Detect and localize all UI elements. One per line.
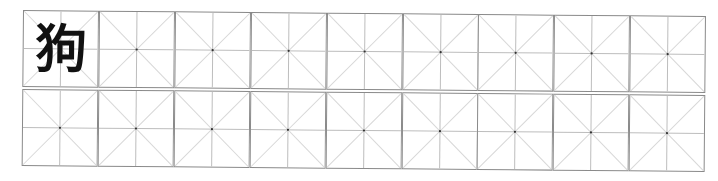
grid-cell: [477, 93, 554, 171]
practice-character: 狗: [23, 11, 98, 87]
empty-practice-slot: [631, 16, 706, 92]
grid-cell: [22, 89, 99, 167]
grid-cell: [402, 13, 479, 91]
empty-practice-slot: [99, 12, 174, 88]
grid-cell: [325, 92, 402, 170]
empty-practice-slot: [175, 12, 250, 88]
grid-cell: [478, 14, 555, 92]
grid-cell: 狗: [22, 10, 99, 88]
grid-cell: [401, 92, 478, 170]
empty-practice-slot: [554, 95, 629, 171]
grid-cell: [553, 94, 630, 172]
empty-practice-slot: [23, 90, 98, 166]
empty-practice-slot: [99, 91, 174, 167]
grid-cell: [98, 90, 175, 168]
empty-practice-slot: [403, 14, 478, 90]
grid-cell: [249, 91, 326, 169]
empty-practice-slot: [250, 92, 325, 168]
grid-cell: [629, 15, 706, 93]
empty-practice-slot: [402, 93, 477, 169]
grid-cell: [554, 15, 631, 93]
grid-row-2: [22, 89, 705, 172]
empty-practice-slot: [327, 14, 402, 90]
practice-worksheet: 狗: [22, 10, 705, 174]
empty-practice-slot: [326, 93, 401, 169]
grid-cell: [174, 11, 251, 89]
grid-cell: [98, 11, 175, 89]
empty-practice-slot: [630, 95, 705, 171]
grid-cell: [326, 13, 403, 91]
grid-cell: [250, 12, 327, 90]
grid-cell: [629, 94, 706, 172]
empty-practice-slot: [479, 15, 554, 91]
empty-practice-slot: [478, 94, 553, 170]
empty-practice-slot: [555, 16, 630, 92]
grid-row-1: 狗: [22, 10, 705, 93]
grid-cell: [173, 90, 250, 168]
empty-practice-slot: [174, 91, 249, 167]
empty-practice-slot: [251, 13, 326, 89]
